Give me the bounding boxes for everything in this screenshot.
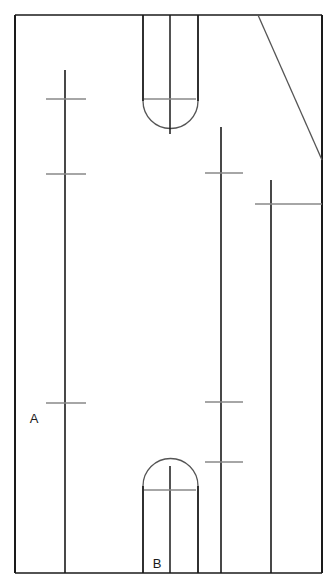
label-b: B bbox=[153, 556, 162, 571]
centerline-tick-group bbox=[46, 99, 322, 490]
chamfer-diagonal-line bbox=[258, 15, 322, 160]
callout-label-group: AB bbox=[30, 411, 162, 571]
technical-drawing-canvas: AB bbox=[0, 0, 331, 586]
chamfer-line-group bbox=[258, 15, 322, 160]
label-a: A bbox=[30, 411, 39, 426]
drawing-svg: AB bbox=[0, 0, 331, 586]
